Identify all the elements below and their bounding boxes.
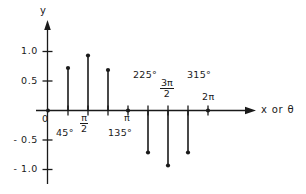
chart-canvas (0, 0, 306, 194)
x-tick-label-pi: π (124, 113, 130, 123)
y-axis (44, 20, 51, 184)
x-axis-label: x or θ (261, 105, 294, 115)
degree-label-135: 135° (108, 128, 132, 138)
fraction-denominator: 2 (80, 123, 88, 134)
sine-stem-plot-figure: y x or θ 1.0 0.5 - 0.5 - 1.0 0 π 2 π 3π … (0, 0, 306, 194)
y-tick-label-0p5: 0.5 (10, 76, 38, 86)
y-tick-label-neg1: - 1.0 (3, 164, 38, 174)
data-point (66, 66, 70, 70)
x-tick-label-3pi-over-2: 3π 2 (160, 78, 174, 100)
fraction-numerator: π (80, 113, 88, 123)
degree-label-225: 225° (133, 70, 157, 80)
x-tick-label-pi-over-2: π 2 (80, 113, 88, 135)
x-axis (36, 107, 256, 114)
data-point (46, 109, 50, 113)
data-point (206, 108, 210, 112)
y-tick-label-neg0p5: - 0.5 (3, 135, 38, 145)
data-point (86, 53, 90, 57)
data-point (146, 150, 150, 154)
y-tick-label-1: 1.0 (10, 46, 38, 56)
fraction-denominator: 2 (160, 88, 174, 99)
degree-label-45: 45° (56, 128, 74, 138)
y-axis-label: y (40, 6, 46, 16)
x-tick-label-origin: 0 (42, 114, 48, 124)
data-point (166, 163, 170, 167)
fraction-numerator: 3π (160, 78, 174, 88)
data-point (186, 150, 190, 154)
x-tick-label-2pi: 2π (202, 92, 215, 102)
degree-label-315: 315° (187, 70, 211, 80)
data-point (106, 68, 110, 72)
